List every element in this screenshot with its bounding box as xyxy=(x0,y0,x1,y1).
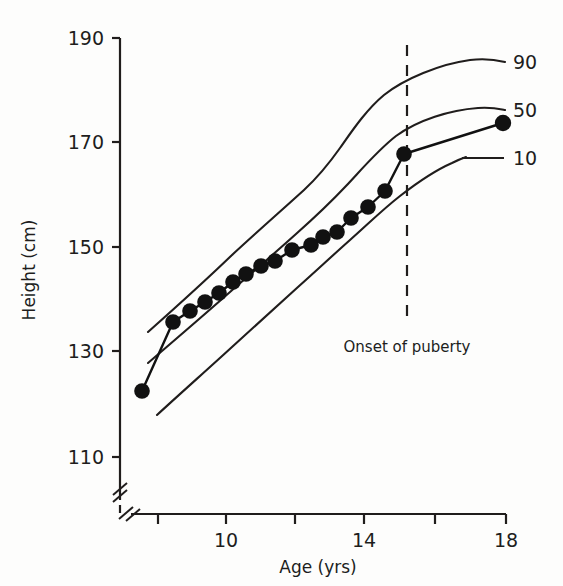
data-point xyxy=(165,314,181,330)
percentile-curve-90 xyxy=(148,59,505,332)
data-point xyxy=(211,285,227,301)
data-point xyxy=(182,303,198,319)
data-point xyxy=(360,199,376,215)
data-point xyxy=(495,115,511,131)
patient-data-markers xyxy=(134,115,511,399)
curve-label-10: 10 xyxy=(513,147,537,169)
data-point xyxy=(377,183,393,199)
ytick-170: 170 xyxy=(68,131,104,153)
y-axis xyxy=(112,38,120,480)
data-point xyxy=(253,258,269,274)
xtick-10: 10 xyxy=(214,529,238,551)
data-point xyxy=(134,383,150,399)
data-point xyxy=(238,266,254,282)
percentile-curve-10 xyxy=(157,157,466,415)
data-point xyxy=(267,253,283,269)
xtick-14: 14 xyxy=(352,529,376,551)
data-point xyxy=(225,274,241,290)
data-point xyxy=(396,146,412,162)
x-axis xyxy=(131,514,506,524)
ytick-110: 110 xyxy=(68,446,104,468)
data-point xyxy=(284,242,300,258)
data-point xyxy=(329,224,345,240)
curve-label-90: 90 xyxy=(513,51,537,73)
data-point xyxy=(343,210,359,226)
xtick-18: 18 xyxy=(494,529,518,551)
x-axis-title: Age (yrs) xyxy=(279,557,356,577)
chart-canvas: 190 170 150 130 110 10 14 18 Age (yrs) H… xyxy=(0,0,563,586)
data-point xyxy=(197,294,213,310)
ytick-130: 130 xyxy=(68,340,104,362)
y-axis-title: Height (cm) xyxy=(19,220,39,321)
growth-chart-figure: 190 170 150 130 110 10 14 18 Age (yrs) H… xyxy=(0,0,563,586)
data-point xyxy=(315,229,331,245)
ytick-150: 150 xyxy=(68,236,104,258)
curve-label-50: 50 xyxy=(513,99,537,121)
ytick-190: 190 xyxy=(68,27,104,49)
onset-of-puberty-label: Onset of puberty xyxy=(344,338,471,356)
